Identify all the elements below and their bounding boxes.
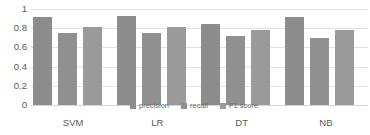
plot-area [31, 9, 368, 105]
bar-dt-recall [226, 36, 245, 105]
x-axis: SVMLRDTNB [31, 108, 368, 128]
legend-label: precision [139, 101, 169, 110]
legend-label: F1 score [229, 101, 258, 110]
legend-item-precision[interactable]: precision [130, 100, 169, 111]
bar-nb-precision [285, 17, 304, 105]
legend-item-recall[interactable]: recall [181, 100, 208, 111]
bar-lr-precision [117, 16, 136, 105]
bar-group [115, 9, 199, 105]
y-axis: 00.20.40.60.81 [0, 0, 27, 135]
bar-group [31, 9, 115, 105]
bar-chart: 00.20.40.60.81 SVMLRDTNB precisionrecall… [0, 0, 370, 135]
y-tick-label: 0.2 [0, 81, 27, 91]
x-tick-label-nb: NB [284, 117, 368, 128]
y-tick-label: 0.6 [0, 42, 27, 52]
bar-svm-recall [58, 33, 77, 105]
y-tick-label: 0.4 [0, 62, 27, 72]
legend-swatch-icon [130, 103, 136, 109]
x-tick-label-lr: LR [115, 117, 199, 128]
bar-nb-recall [310, 38, 329, 105]
y-tick-label: 1 [0, 4, 27, 14]
bar-group [200, 9, 284, 105]
y-tick-label: 0 [0, 100, 27, 110]
bar-svm-precision [33, 17, 52, 105]
bar-lr-f1-score [167, 27, 186, 105]
bar-lr-recall [142, 33, 161, 105]
x-tick-label-dt: DT [200, 117, 284, 128]
bar-group [284, 9, 368, 105]
y-tick-label: 0.8 [0, 23, 27, 33]
x-tick-label-svm: SVM [31, 117, 115, 128]
bar-svm-f1-score [83, 27, 102, 105]
legend-swatch-icon [220, 103, 226, 109]
bar-nb-f1-score [335, 30, 354, 105]
legend-item-f1-score[interactable]: F1 score [220, 100, 258, 111]
bar-dt-f1-score [251, 30, 270, 105]
legend-label: recall [190, 101, 208, 110]
legend-swatch-icon [181, 103, 187, 109]
bar-dt-precision [201, 24, 220, 105]
chart-legend: precisionrecallF1 score [130, 100, 258, 111]
